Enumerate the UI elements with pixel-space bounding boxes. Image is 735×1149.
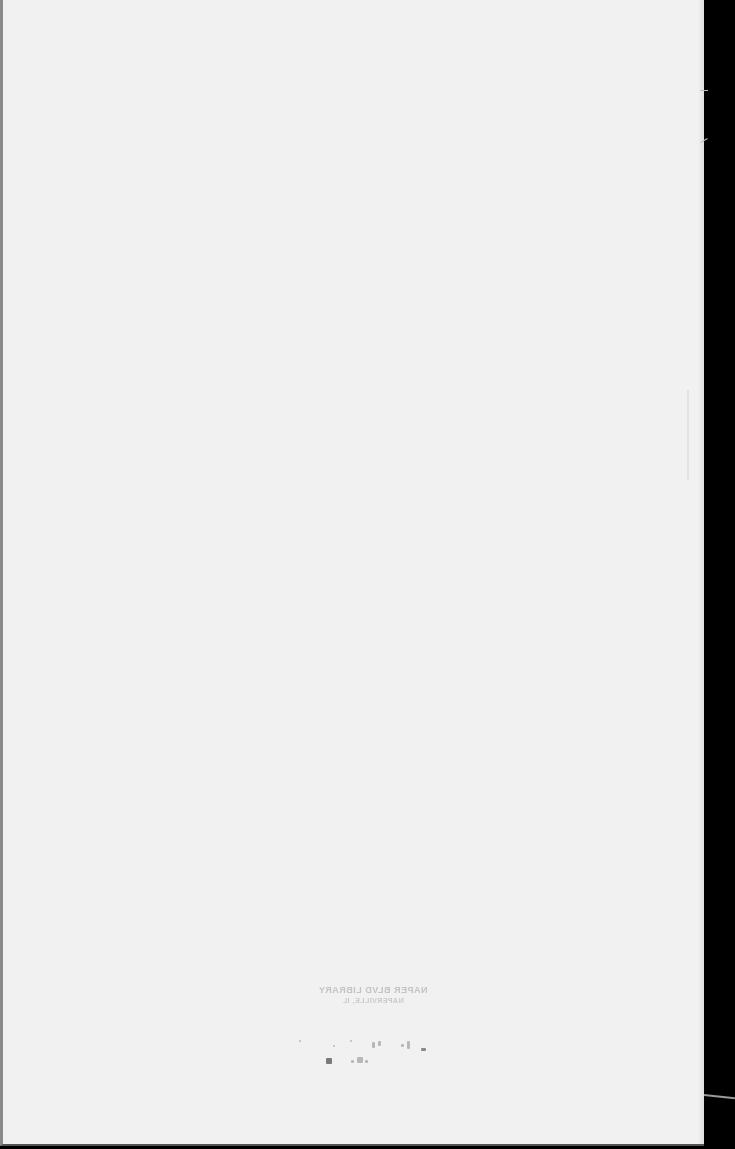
library-stamp-show-through: NAPER BLVD LIBRARY NAPERVILLE, IL: [303, 984, 443, 1006]
stamp-location: NAPERVILLE, IL: [303, 996, 443, 1006]
stamp-library-name: NAPER BLVD LIBRARY: [303, 984, 443, 996]
page-edge-curl: [704, 1094, 735, 1099]
scan-frame: NAPER BLVD LIBRARY NAPERVILLE, IL: [0, 0, 735, 1149]
blank-page: NAPER BLVD LIBRARY NAPERVILLE, IL: [0, 0, 704, 1146]
show-through-mark: [687, 390, 689, 480]
page-edge-tear: [700, 90, 708, 91]
page-edge-shadow: [698, 0, 704, 1144]
stamp-date-specks: [293, 1020, 443, 1070]
